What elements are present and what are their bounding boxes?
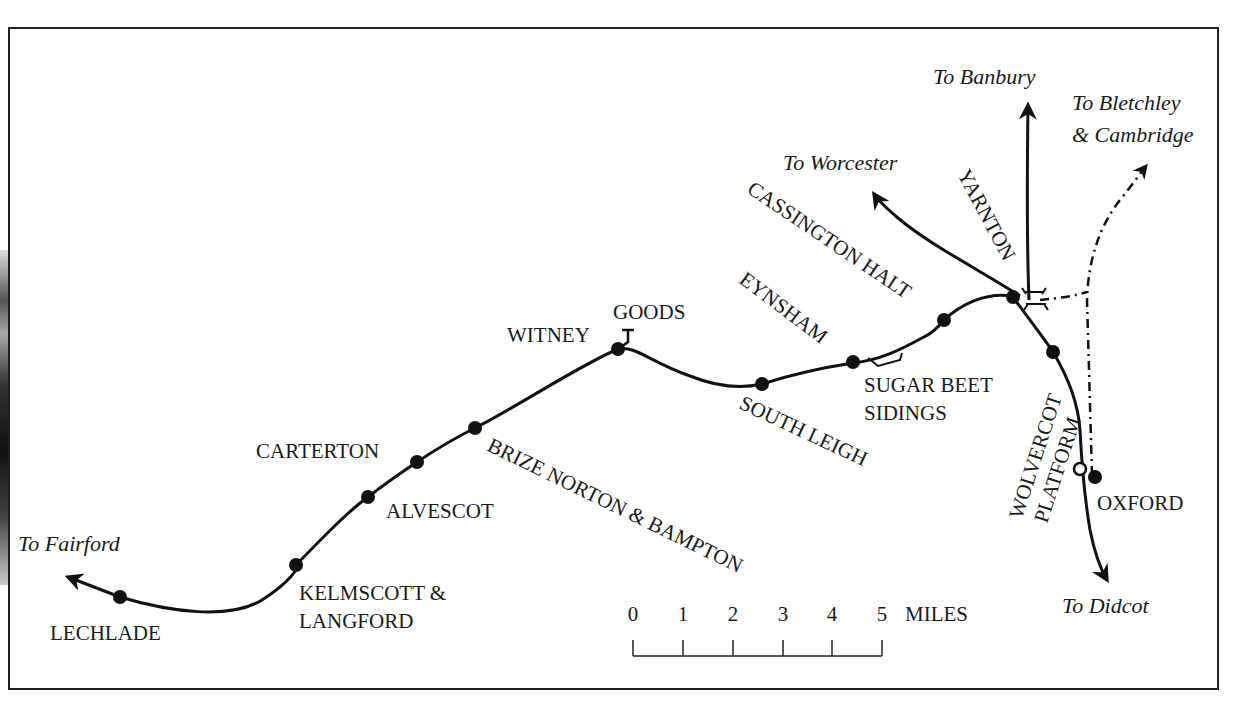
station-dot-oxford-gwr[interactable] (1074, 463, 1086, 475)
label-to-fairford: To Fairford (18, 531, 121, 556)
railway-map: To Fairford To Worcester To Banbury To B… (0, 0, 1247, 714)
scale-unit: MILES (905, 602, 968, 626)
bletchley-line (1087, 166, 1146, 475)
label-to-worcester: To Worcester (783, 150, 898, 175)
label-sugar-beet-2: SIDINGS (864, 401, 947, 425)
station-dot-cassington[interactable] (937, 313, 951, 327)
map-canvas: To Fairford To Worcester To Banbury To B… (0, 0, 1247, 714)
station-dot-south-leigh[interactable] (755, 377, 769, 391)
label-to-didcot: To Didcot (1062, 593, 1149, 618)
label-witney: WITNEY (507, 323, 590, 347)
label-to-cambridge: & Cambridge (1072, 122, 1194, 147)
map-frame (9, 28, 1218, 689)
label-south-leigh: SOUTH LEIGH (736, 391, 871, 471)
station-dot-oxford-lnwr[interactable] (1088, 470, 1102, 484)
label-kelmscott-1: KELMSCOTT & (299, 581, 446, 605)
station-dot-carterton[interactable] (410, 455, 424, 469)
scale-tick-3: 3 (778, 602, 789, 626)
scale-tick-5: 5 (877, 602, 888, 626)
banbury-line (1027, 105, 1029, 300)
station-dot-eynsham[interactable] (846, 355, 860, 369)
scale-tick-2: 2 (728, 602, 739, 626)
label-eynsham: EYNSHAM (735, 267, 833, 349)
label-brize-norton: BRIZE NORTON & BAMPTON (484, 433, 747, 578)
label-yarnton: YARNTON (953, 165, 1021, 265)
scale-bar: 0 1 2 3 4 5 MILES (628, 602, 968, 656)
label-carterton: CARTERTON (256, 439, 379, 463)
scale-tick-4: 4 (827, 602, 838, 626)
station-dot-lechlade[interactable] (113, 590, 127, 604)
label-kelmscott-2: LANGFORD (299, 609, 413, 633)
label-lechlade: LECHLADE (50, 621, 161, 645)
label-to-bletchley: To Bletchley (1072, 90, 1181, 115)
label-to-banbury: To Banbury (933, 64, 1036, 89)
station-dot-yarnton[interactable] (1006, 290, 1020, 304)
station-dot-kelmscott[interactable] (289, 558, 303, 572)
station-dot-wolvercot[interactable] (1046, 345, 1060, 359)
scan-edge-artifact (0, 250, 8, 585)
yarnton-lnwr-spur (1040, 292, 1087, 300)
scale-tick-1: 1 (678, 602, 689, 626)
label-sugar-beet-1: SUGAR BEET (864, 373, 993, 397)
station-dot-alvescot[interactable] (361, 490, 375, 504)
station-dot-witney[interactable] (611, 342, 625, 356)
label-alvescot: ALVESCOT (386, 499, 494, 523)
station-dot-brize-norton[interactable] (468, 421, 482, 435)
fairford-arrow-line (68, 577, 120, 597)
scale-tick-0: 0 (628, 602, 639, 626)
label-goods: GOODS (613, 300, 685, 324)
label-oxford: OXFORD (1097, 491, 1183, 515)
